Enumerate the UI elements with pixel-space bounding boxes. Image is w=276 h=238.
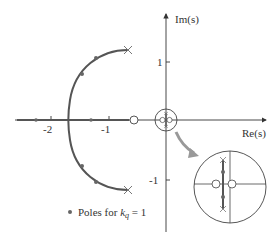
pole-dot	[94, 180, 98, 184]
legend: Poles for kq = 1	[68, 206, 146, 220]
pole-dot	[34, 118, 38, 122]
pole-dot	[89, 118, 93, 122]
real-axis-label: Re(s)	[242, 127, 266, 140]
pole-dot	[94, 56, 98, 60]
legend-text: Poles for kq = 1	[78, 206, 146, 220]
tick-label-y-minus1: -1	[149, 174, 158, 186]
inset-magnified	[194, 151, 266, 223]
root-locus-diagram: -2 -1 1 -1 Im(s) Re(s)	[0, 0, 276, 238]
pole-dot	[80, 164, 84, 168]
pole-dot	[80, 72, 84, 76]
tick-label-x-minus1: -1	[101, 123, 110, 135]
imag-axis-label: Im(s)	[175, 13, 199, 26]
zero-circle	[130, 116, 138, 124]
tick-label-y-1: 1	[157, 56, 163, 68]
legend-dot-icon	[68, 210, 72, 214]
tick-label-x-minus2: -2	[43, 123, 52, 135]
